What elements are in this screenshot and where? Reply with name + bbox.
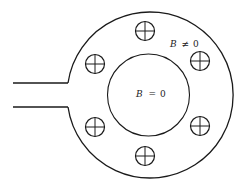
current-element-upper-left [86,55,105,74]
toroid-diagram: B ≠ 0 B = 0 [0,0,243,188]
current-element-lower-left [86,118,105,137]
inner-region-label: B = 0 [135,89,166,99]
current-element-bottom [136,147,155,166]
current-element-lower-right [191,117,210,136]
current-element-top [136,22,155,41]
current-element-upper-right [191,52,210,71]
outer-region-label: B ≠ 0 [169,39,199,49]
